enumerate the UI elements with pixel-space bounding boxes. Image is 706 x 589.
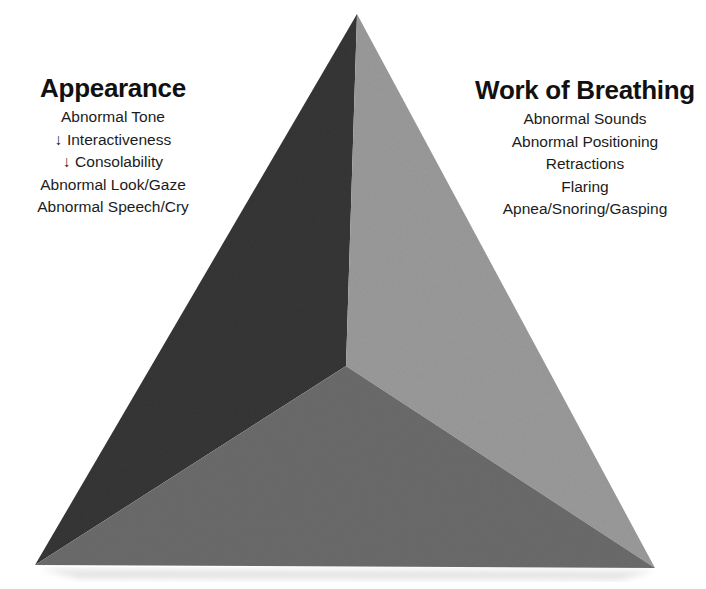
appearance-criteria-list: Abnormal Tone ↓ Interactiveness ↓ Consol…	[8, 106, 218, 219]
work-of-breathing-criterion: Apnea/Snoring/Gasping	[466, 198, 704, 221]
work-of-breathing-criterion: Retractions	[466, 153, 704, 176]
appearance-criterion: Abnormal Tone	[8, 106, 218, 129]
work-of-breathing-criterion: Flaring	[466, 176, 704, 199]
work-of-breathing-title: Work of Breathing	[466, 74, 704, 106]
appearance-criterion: Abnormal Speech/Cry	[8, 196, 218, 219]
work-of-breathing-criteria-list: Abnormal Sounds Abnormal Positioning Ret…	[466, 108, 704, 221]
work-of-breathing-criterion: Abnormal Positioning	[466, 131, 704, 154]
appearance-title: Appearance	[8, 72, 218, 104]
appearance-label-block: Appearance Abnormal Tone ↓ Interactivene…	[8, 72, 218, 219]
ground-shadow	[40, 569, 655, 580]
appearance-criterion: ↓ Consolability	[8, 151, 218, 174]
work-of-breathing-label-block: Work of Breathing Abnormal Sounds Abnorm…	[466, 74, 704, 221]
appearance-criterion: Abnormal Look/Gaze	[8, 174, 218, 197]
work-of-breathing-criterion: Abnormal Sounds	[466, 108, 704, 131]
appearance-criterion: ↓ Interactiveness	[8, 129, 218, 152]
